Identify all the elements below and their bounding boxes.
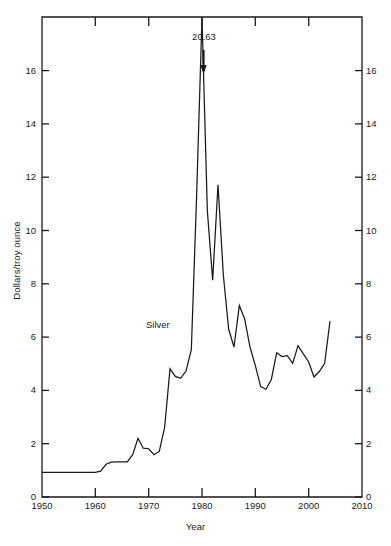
xtick-label-2000: 2000 — [289, 500, 329, 511]
ytick-label-left-14: 14 — [10, 118, 36, 129]
ytick-label-right-6: 6 — [366, 331, 391, 342]
xtick-label-1970: 1970 — [129, 500, 169, 511]
ytick-label-left-2: 2 — [10, 438, 36, 449]
ytick-label-right-4: 4 — [366, 384, 391, 395]
ytick-label-right-2: 2 — [366, 438, 391, 449]
ytick-label-right-12: 12 — [366, 171, 391, 182]
peak-value-annotation: 20.63 — [174, 31, 234, 42]
x-axis-title: Year — [0, 521, 391, 532]
xtick-label-1990: 1990 — [235, 500, 275, 511]
x-axis-ticks-bottom — [95, 488, 308, 497]
ytick-label-left-4: 4 — [10, 384, 36, 395]
ytick-label-right-16: 16 — [366, 65, 391, 76]
y-axis-ticks-left — [42, 71, 49, 497]
plot-area-svg — [0, 0, 391, 546]
xtick-label-2010: 2010 — [342, 500, 382, 511]
series-label-silver: Silver — [146, 319, 170, 330]
ytick-label-left-6: 6 — [10, 331, 36, 342]
y-axis-ticks-right — [355, 71, 362, 497]
xtick-label-1980: 1980 — [182, 500, 222, 511]
ytick-label-right-8: 8 — [366, 278, 391, 289]
silver-price-line — [42, 17, 330, 472]
axis-frame — [42, 17, 362, 497]
ytick-label-right-10: 10 — [366, 225, 391, 236]
ytick-label-right-14: 14 — [366, 118, 391, 129]
xtick-label-1960: 1960 — [75, 500, 115, 511]
ytick-label-left-16: 16 — [10, 65, 36, 76]
y-axis-title: Dollars/troy ounce — [11, 201, 22, 321]
silver-price-chart: 0 2 4 6 8 10 12 14 16 0 2 4 6 8 10 12 14… — [0, 0, 391, 546]
ytick-label-left-12: 12 — [10, 171, 36, 182]
xtick-label-1950: 1950 — [22, 500, 62, 511]
